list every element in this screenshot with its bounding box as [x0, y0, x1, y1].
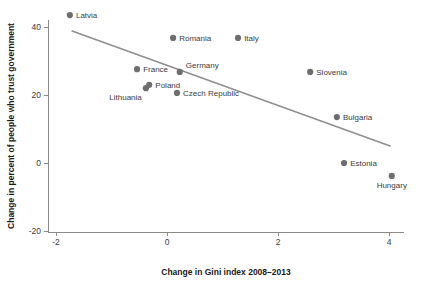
data-point-label: Lithuania [109, 93, 142, 102]
data-point-label: France [143, 65, 168, 74]
data-point-label: Romania [179, 34, 212, 43]
data-point-marker [143, 85, 149, 91]
data-point-marker [170, 35, 176, 41]
data-point-label: Hungary [377, 181, 407, 190]
data-point-label: Latvia [76, 11, 98, 20]
data-point-marker [341, 160, 347, 166]
axis-titles: Change in Gini index 2008–2013Change in … [6, 23, 291, 277]
data-point-marker [307, 69, 313, 75]
data-point-marker [334, 114, 340, 120]
data-point-label: Bulgaria [343, 113, 373, 122]
x-tick-label: -2 [52, 237, 60, 247]
y-tick-label: -20 [29, 226, 42, 236]
x-tick-label: 2 [276, 237, 281, 247]
x-tick-label: 0 [165, 237, 170, 247]
data-point-label: Czech Republic [183, 89, 239, 98]
y-tick-label: 20 [32, 90, 42, 100]
data-point-marker [177, 69, 183, 75]
axes: -2002040-2024 [29, 20, 404, 247]
data-point-marker [174, 90, 180, 96]
x-axis-title: Change in Gini index 2008–2013 [161, 267, 291, 277]
data-point-marker [389, 173, 395, 179]
data-point-label: Italy [244, 34, 259, 43]
y-tick-label: 40 [32, 22, 42, 32]
y-axis-title: Change in percent of people who trust go… [6, 23, 16, 229]
y-tick-label: 0 [36, 158, 41, 168]
scatter-chart: -2002040-2024 LatviaRomaniaItalyFranceGe… [0, 0, 421, 285]
x-tick-label: 4 [387, 237, 392, 247]
data-point-marker [67, 12, 73, 18]
data-point-label: Slovenia [316, 68, 347, 77]
data-points: LatviaRomaniaItalyFranceGermanyPolandLit… [67, 11, 407, 190]
data-point-label: Poland [155, 81, 180, 90]
data-point-marker [235, 35, 241, 41]
plot-area: -2002040-2024 LatviaRomaniaItalyFranceGe… [0, 0, 421, 285]
data-point-label: Germany [186, 61, 219, 70]
data-point-marker [134, 66, 140, 72]
data-point-label: Estonia [350, 159, 377, 168]
